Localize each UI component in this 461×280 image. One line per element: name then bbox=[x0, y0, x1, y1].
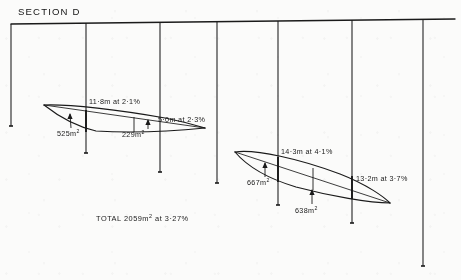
drawing-sheet: SECTION D 11·8m at 2·1%5·0m at 2·3%525m2… bbox=[0, 0, 461, 280]
lower-section-area-label-1: 667m2 bbox=[247, 179, 270, 186]
area-unit-exponent: 2 bbox=[314, 205, 317, 211]
upper-section-dimension-label-2: 5·0m at 2·3% bbox=[158, 116, 205, 123]
area-unit-exponent: 2 bbox=[141, 129, 144, 135]
datum-line bbox=[11, 19, 455, 24]
station-lines-group bbox=[9, 19, 425, 266]
area-value: 667m bbox=[247, 178, 266, 187]
lower-section-dimension-label-2: 13·2m at 3·7% bbox=[356, 175, 408, 182]
upper-section-area-label-2: 229m2 bbox=[122, 131, 145, 138]
area-unit-exponent: 2 bbox=[76, 128, 79, 134]
total-summary-label: TOTAL 2059m2 at 3·27% bbox=[96, 214, 189, 223]
upper-section-dimension-label-1: 11·8m at 2·1% bbox=[89, 98, 140, 105]
total-text: TOTAL 2059m bbox=[96, 214, 149, 223]
drawing-linework bbox=[0, 0, 461, 280]
total-tail: at 3·27% bbox=[153, 214, 189, 223]
upper-section-area-label-1: 525m2 bbox=[57, 130, 80, 137]
area-unit-exponent: 2 bbox=[266, 177, 269, 183]
area-value: 229m bbox=[122, 130, 141, 139]
lower-section-dimension-label-1: 14·3m at 4·1% bbox=[281, 148, 333, 155]
area-value: 525m bbox=[57, 129, 76, 138]
lower-section-area-label-2: 638m2 bbox=[295, 207, 318, 214]
area-value: 638m bbox=[295, 206, 314, 215]
upper-section-area-arrowhead-1 bbox=[67, 113, 72, 119]
datum-line-group bbox=[11, 19, 455, 24]
